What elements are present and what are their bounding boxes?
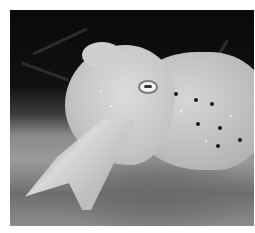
seaweed [21,62,69,82]
cuttlefish-photo [10,10,254,226]
dark-spot [210,102,214,106]
dark-spot [174,92,178,96]
light-dot [205,140,207,142]
cuttlefish-eye [138,80,158,94]
light-dot [180,110,182,112]
seaweed [32,27,88,55]
pupil [144,85,152,88]
dark-spot [216,144,220,148]
light-dot [230,115,232,117]
dark-spot [196,122,200,126]
cuttlefish-hump [82,42,122,68]
dark-spot [218,126,222,130]
light-dot [100,90,102,92]
dark-spot [238,138,242,142]
light-dot [110,105,112,107]
dark-spot [194,98,198,102]
